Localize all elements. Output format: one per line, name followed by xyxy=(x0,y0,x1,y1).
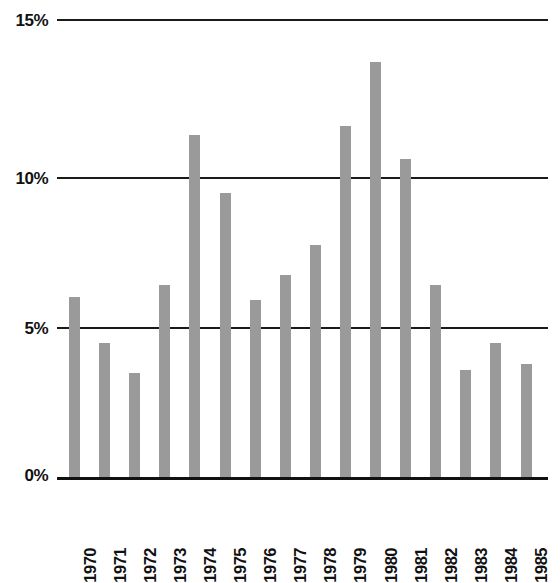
bar-1976 xyxy=(250,300,261,477)
x-tick-label-1975: 1975 xyxy=(232,548,249,583)
bar-1984 xyxy=(490,343,501,477)
x-tick-label-1977: 1977 xyxy=(292,548,309,583)
bar-1981 xyxy=(400,159,411,477)
bar-1978 xyxy=(310,245,321,477)
x-tick-label-1984: 1984 xyxy=(503,548,520,583)
bar-1979 xyxy=(340,126,351,477)
x-tick-label-1973: 1973 xyxy=(172,548,189,583)
x-tick-label-1974: 1974 xyxy=(202,548,219,583)
x-tick-label-1971: 1971 xyxy=(112,548,129,583)
bar-1975 xyxy=(220,193,231,477)
y-tick-label-15: 15% xyxy=(0,11,48,31)
plot-area xyxy=(57,0,548,480)
bars-layer xyxy=(57,0,548,477)
bar-1985 xyxy=(521,364,532,477)
x-tick-label-1972: 1972 xyxy=(142,548,159,583)
x-tick-label-1979: 1979 xyxy=(352,548,369,583)
x-tick-label-1983: 1983 xyxy=(473,548,490,583)
bar-1983 xyxy=(460,370,471,477)
bar-1977 xyxy=(280,275,291,477)
x-tick-label-1976: 1976 xyxy=(262,548,279,583)
x-tick-label-1981: 1981 xyxy=(413,548,430,583)
bar-1973 xyxy=(159,285,170,477)
bar-1974 xyxy=(189,135,200,477)
bar-1980 xyxy=(370,62,381,477)
x-tick-label-1978: 1978 xyxy=(322,548,339,583)
x-tick-label-1982: 1982 xyxy=(443,548,460,583)
x-tick-label-1970: 1970 xyxy=(82,548,99,583)
x-tick-label-1985: 1985 xyxy=(533,548,550,583)
bar-1972 xyxy=(129,373,140,477)
x-tick-label-1980: 1980 xyxy=(383,548,400,583)
y-tick-label-5: 5% xyxy=(0,319,48,339)
axis-baseline-0 xyxy=(57,477,548,480)
bar-1970 xyxy=(69,297,80,477)
y-tick-label-10: 10% xyxy=(0,169,48,189)
bar-1982 xyxy=(430,285,441,477)
y-tick-label-0: 0% xyxy=(0,466,48,486)
bar-1971 xyxy=(99,343,110,477)
x-axis-labels: 1970197119721973197419751976197719781979… xyxy=(57,482,548,551)
